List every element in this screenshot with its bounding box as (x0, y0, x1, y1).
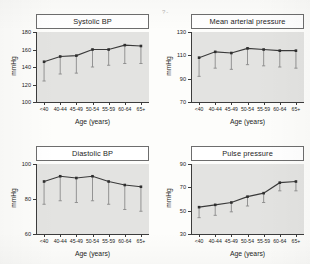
x-tick (231, 102, 232, 105)
panel-pulse: Pulse pressure mmHg 30507090<4040-4445-4… (155, 132, 310, 264)
data-point-marker (198, 56, 201, 59)
y-tick-label: 30 (180, 231, 186, 237)
x-tick (280, 102, 281, 105)
panel-diastolic: Diastolic BP mmHg 6080100<4040-4445-4950… (0, 132, 155, 264)
x-tick (44, 234, 45, 237)
data-point-marker (230, 52, 233, 55)
y-tick-label: 90 (180, 161, 186, 167)
panel-title-systolic: Systolic BP (73, 17, 111, 26)
x-tick (264, 102, 265, 105)
x-tick (125, 234, 126, 237)
y-tick-label: 90 (180, 76, 186, 82)
x-tick (199, 102, 200, 105)
data-point-marker (295, 49, 298, 52)
y-tick-label: 70 (180, 184, 186, 190)
x-tick-label: 40-44 (209, 106, 222, 112)
x-axis-label-systolic: Age (years) (36, 118, 149, 125)
x-tick-label: <40 (40, 238, 49, 244)
y-tick-label: 180 (22, 29, 31, 35)
y-tick-label: 70 (180, 99, 186, 105)
x-tick (215, 102, 216, 105)
panel-title-diastolic: Diastolic BP (72, 149, 113, 158)
plot-area-map: 7090110130<4040-4445-4950-5455-5960-6465… (191, 32, 304, 102)
x-tick (109, 234, 110, 237)
x-tick-label: 55-59 (257, 238, 270, 244)
x-tick-label: 60-64 (273, 238, 286, 244)
x-tick (264, 234, 265, 237)
x-tick-label: 65+ (292, 238, 301, 244)
chart-grid: Systolic BP mmHg 100120140160180<4040-44… (0, 0, 310, 264)
x-tick-label: 50-54 (86, 106, 99, 112)
y-tick (188, 102, 191, 103)
data-point-marker (198, 206, 201, 209)
data-point-marker (91, 175, 94, 178)
x-tick (199, 234, 200, 237)
x-tick-label: 40-44 (209, 238, 222, 244)
panel-systolic: Systolic BP mmHg 100120140160180<4040-44… (0, 0, 155, 132)
plot-area-diastolic: 6080100<4040-4445-4950-5455-5960-6465+ (36, 164, 149, 234)
data-point-marker (214, 204, 217, 207)
data-point-marker (59, 55, 62, 58)
x-tick-label: 65+ (137, 238, 146, 244)
data-point-marker (59, 175, 62, 178)
y-tick (33, 102, 36, 103)
y-axis-label-pulse: mmHg (165, 188, 172, 207)
data-point-marker (107, 180, 110, 183)
x-tick (125, 102, 126, 105)
x-tick-label: 45-49 (70, 106, 83, 112)
x-tick-label: 60-64 (118, 106, 131, 112)
data-point-marker (123, 44, 126, 47)
y-tick-label: 130 (177, 29, 186, 35)
x-tick (231, 234, 232, 237)
x-tick-label: 45-49 (225, 238, 238, 244)
x-tick (60, 234, 61, 237)
data-point-marker (214, 51, 217, 54)
x-tick-label: 45-49 (70, 238, 83, 244)
series-layer (191, 164, 304, 234)
series-layer (36, 32, 149, 102)
y-axis-label-map: mmHg (165, 56, 172, 75)
x-axis-label-diastolic: Age (years) (36, 250, 149, 257)
x-tick-label: <40 (195, 238, 204, 244)
x-tick (248, 102, 249, 105)
x-tick-label: 40-44 (54, 238, 67, 244)
x-tick (44, 102, 45, 105)
panel-title-pulse: Pulse pressure (222, 149, 273, 158)
y-tick-label: 120 (22, 82, 31, 88)
x-tick (280, 234, 281, 237)
data-point-marker (75, 54, 78, 57)
data-point-marker (230, 201, 233, 204)
y-tick (33, 234, 36, 235)
y-tick-label: 100 (22, 99, 31, 105)
data-point-marker (246, 195, 249, 198)
x-tick (141, 234, 142, 237)
x-tick (93, 102, 94, 105)
data-point-marker (140, 45, 143, 48)
panel-map: ?- Mean arterial pressure mmHg 709011013… (155, 0, 310, 132)
series-layer (36, 164, 149, 234)
x-tick (141, 102, 142, 105)
data-point-marker (262, 48, 265, 51)
x-axis-label-pulse: Age (years) (191, 250, 304, 257)
x-tick (248, 234, 249, 237)
x-tick-label: <40 (40, 106, 49, 112)
plot-area-pulse: 30507090<4040-4445-4950-5455-5960-6465+ (191, 164, 304, 234)
data-point-marker (262, 192, 265, 195)
x-tick-label: 55-59 (102, 106, 115, 112)
x-tick-label: 50-54 (86, 238, 99, 244)
data-point-marker (107, 48, 110, 51)
y-tick-label: 110 (177, 52, 186, 58)
panel-title-box-map: Mean arterial pressure (191, 14, 304, 29)
data-point-marker (295, 180, 298, 183)
panel-title-box-systolic: Systolic BP (36, 14, 149, 29)
x-tick (60, 102, 61, 105)
series-layer (191, 32, 304, 102)
data-point-marker (278, 181, 281, 184)
x-tick-label: 60-64 (118, 238, 131, 244)
y-tick (188, 234, 191, 235)
x-tick-label: 60-64 (273, 106, 286, 112)
data-point-marker (246, 47, 249, 50)
x-tick-label: 55-59 (102, 238, 115, 244)
x-tick (76, 234, 77, 237)
data-point-marker (123, 184, 126, 187)
